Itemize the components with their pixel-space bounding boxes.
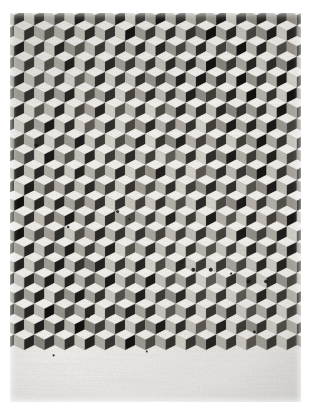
cube-tessellation xyxy=(10,13,301,402)
pattern-plate xyxy=(10,13,301,402)
photograph-canvas xyxy=(0,0,310,415)
